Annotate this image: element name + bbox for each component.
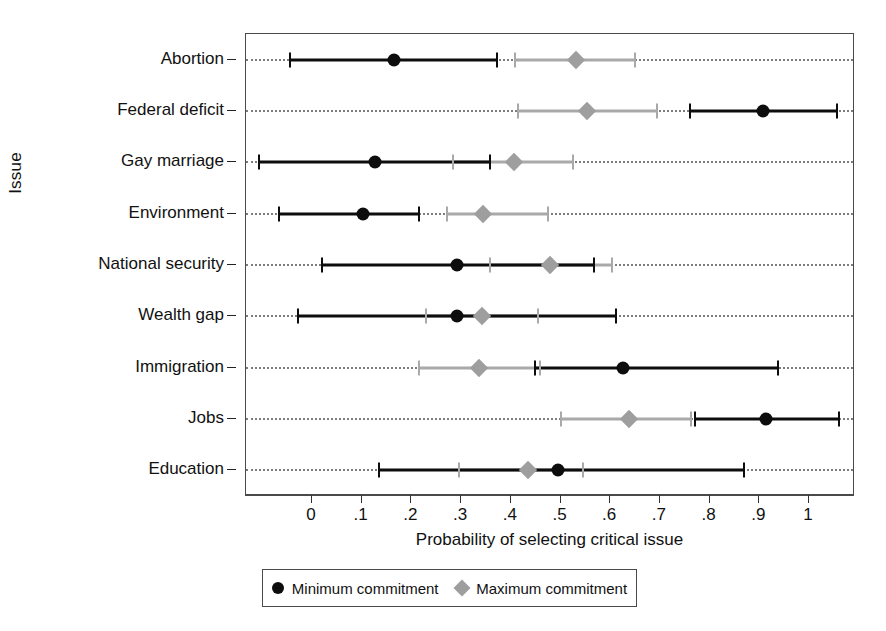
x-axis-line [245,495,854,496]
data-point-minimum [756,104,769,117]
x-axis-tick-label: .4 [503,505,517,525]
data-point-minimum [759,412,772,425]
data-point-maximum [620,410,638,428]
interval-cap [489,155,491,170]
x-axis-tick [758,495,759,503]
data-point-maximum [474,204,492,222]
x-axis-tick [808,495,809,503]
data-point-minimum [388,53,401,66]
data-point-minimum [451,310,464,323]
interval-cap [418,360,420,375]
x-axis-tick [460,495,461,503]
interval-cap [743,463,745,478]
data-point-maximum [470,358,488,376]
y-axis-tick [227,469,236,470]
legend-item-minimum-commitment: Minimum commitment [272,580,439,597]
interval-cap [446,206,448,221]
x-axis-tick [311,495,312,503]
interval-cap [378,463,380,478]
interval-cap [289,52,291,67]
x-axis-tick-label: .2 [403,505,417,525]
interval-cap [278,206,280,221]
y-axis-category-labels: AbortionFederal deficitGay marriageEnvir… [0,0,238,500]
y-axis-tick-label: Education [148,459,224,479]
data-point-minimum [369,156,382,169]
interval-cap [689,103,691,118]
x-axis-tick-label: 1 [803,505,812,525]
y-axis-tick-label: Gay marriage [121,151,224,171]
y-axis-tick-label: Wealth gap [138,305,224,325]
interval-cap [496,52,498,67]
x-axis-tick-label: .8 [702,505,716,525]
data-point-maximum [519,461,537,479]
x-axis-tick [560,495,561,503]
x-axis-tick-label: .3 [453,505,467,525]
x-axis-tick [709,495,710,503]
interval-cap [458,463,460,478]
y-axis-tick [227,367,236,368]
data-point-maximum [578,102,596,120]
y-axis-tick [227,315,236,316]
interval-cap [537,309,539,324]
interval-cap [694,411,696,426]
y-axis-tick-label: National security [98,254,224,274]
interval-cap [547,206,549,221]
interval-cap [539,360,541,375]
confidence-interval-bar [535,366,779,369]
x-axis-tick [510,495,511,503]
interval-cap [836,103,838,118]
interval-cap [321,257,323,272]
interval-cap [418,206,420,221]
y-axis-tick [227,161,236,162]
y-axis-tick [227,264,236,265]
x-axis-tick-label: 0 [306,505,315,525]
chart-legend: Minimum commitment Maximum commitment [262,569,637,607]
y-axis-tick-label: Jobs [188,408,224,428]
chart-row [246,85,853,136]
y-axis-tick [227,418,236,419]
data-point-minimum [357,207,370,220]
data-point-minimum [552,464,565,477]
interval-cap [517,103,519,118]
confidence-interval-bar [447,212,548,215]
diamond-marker-icon [454,580,471,597]
data-point-minimum [451,258,464,271]
interval-cap [777,360,779,375]
chart-row [246,137,853,188]
y-axis-tick-label: Environment [129,203,224,223]
interval-cap [572,155,574,170]
interval-cap [452,155,454,170]
x-axis-tick-label: .6 [602,505,616,525]
interval-cap [838,411,840,426]
plot-area [245,33,854,495]
x-axis-tick-label: .1 [354,505,368,525]
interval-cap [560,411,562,426]
interval-cap [690,411,692,426]
interval-cap [258,155,260,170]
interval-cap [514,52,516,67]
data-point-maximum [541,256,559,274]
interval-cap [634,52,636,67]
x-axis-tick [410,495,411,503]
legend-label-minimum: Minimum commitment [292,580,439,597]
chart-row [246,445,853,496]
chart-row [246,291,853,342]
x-axis-tick-label: .9 [751,505,765,525]
confidence-interval-bar [279,212,419,215]
chart-row [246,342,853,393]
y-axis-tick-label: Federal deficit [117,100,224,120]
y-axis-tick-label: Abortion [161,49,224,69]
interval-cap [534,360,536,375]
data-point-maximum [505,153,523,171]
data-point-maximum [473,307,491,325]
interval-cap [593,257,595,272]
circle-marker-icon [272,582,284,594]
chart-figure: Issue AbortionFederal deficitGay marriag… [0,0,886,631]
y-axis-tick [227,59,236,60]
legend-item-maximum-commitment: Maximum commitment [456,580,627,597]
data-point-minimum [616,361,629,374]
y-axis-tick [227,110,236,111]
x-axis-tick [609,495,610,503]
chart-row [246,239,853,290]
data-point-maximum [567,50,585,68]
